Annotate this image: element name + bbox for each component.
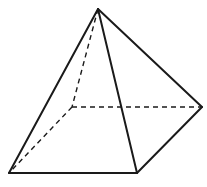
pyramid-diagram bbox=[0, 0, 207, 187]
visible-edge-apex-back_right bbox=[98, 9, 202, 107]
visible-edges bbox=[9, 9, 202, 173]
hidden-edge-apex-back_left bbox=[72, 9, 98, 107]
visible-edge-front_right-back_right bbox=[137, 107, 202, 173]
pyramid-svg bbox=[0, 0, 207, 187]
hidden-edges bbox=[9, 9, 202, 173]
visible-edge-apex-front_left bbox=[9, 9, 98, 173]
visible-edge-apex-front_right bbox=[98, 9, 137, 173]
